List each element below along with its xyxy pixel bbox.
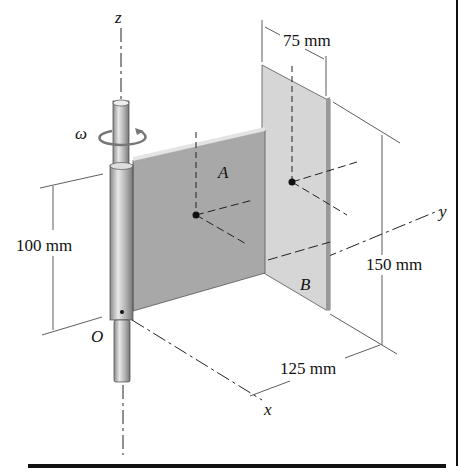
x-axis-label: x	[263, 400, 272, 419]
dim-150mm: 150 mm	[366, 255, 422, 274]
plate-a-label: A	[217, 163, 229, 182]
centroid-a	[193, 212, 200, 219]
dim-100mm: 100 mm	[16, 236, 72, 255]
dim-125mm: 125 mm	[280, 359, 336, 378]
z-axis-label: z	[114, 8, 122, 27]
shaft-lower	[114, 320, 130, 382]
origin-point	[120, 310, 124, 314]
shaft-upper	[113, 101, 129, 165]
shaft-plates-diagram: z y x O ω A B 75 mm 100 mm 150 mm 125 mm	[0, 0, 460, 474]
plate-b	[262, 65, 330, 310]
centroid-b	[289, 179, 296, 186]
x-axis	[132, 320, 262, 400]
plate-b-label: B	[300, 275, 311, 294]
origin-label: O	[91, 327, 103, 346]
y-axis-label: y	[437, 202, 447, 221]
shaft-main	[110, 165, 133, 320]
omega-label: ω	[75, 124, 87, 143]
plate-a	[133, 130, 265, 311]
dim-75mm: 75 mm	[283, 31, 331, 50]
